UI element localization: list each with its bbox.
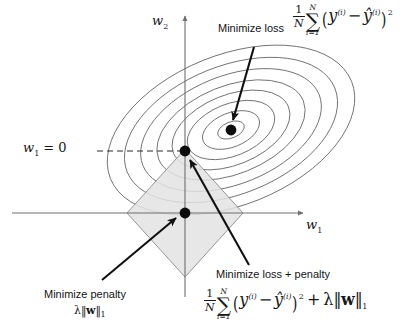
sum-lower-limit: i=1 [306,29,320,38]
sigma-glyph: ∑ [306,13,320,29]
yhat-symbol: ŷ [363,6,372,25]
square-exponent: 2 [388,8,393,17]
minus-sign: − [346,6,363,25]
close-paren: ) [292,293,297,315]
one-over-n-fraction: 1 N [293,4,305,29]
fraction-denominator: N [293,17,305,29]
one-over-n-fraction: 1 N [204,288,216,313]
y-superscript: (i) [337,8,345,17]
norm-subscript: 1 [100,310,105,319]
y-axis-label-sub: 2 [163,22,168,31]
minimize-loss-plus-penalty-formula: 1 N N ∑ i=1 (y(i)−ŷ(i))2+λ‖w‖1 [204,288,367,315]
yhat-superscript: (i) [372,8,380,17]
arrow-minimize-loss [233,47,254,120]
lambda-symbol: λ [74,304,81,317]
x-axis-label-sub: 1 [317,226,322,235]
w1-equals-zero-value: = 0 [39,140,66,155]
sum-lower-limit: i=1 [217,313,231,322]
lambda-symbol: λ [323,290,333,309]
yhat-superscript: (i) [283,292,291,301]
norm-open-bars: ‖ [333,290,341,309]
w1-equals-zero-var: w [23,140,34,155]
sum-upper-limit: N [306,4,320,13]
open-paren: ( [322,9,327,31]
fraction-numerator: 1 [204,288,216,301]
yhat-symbol: ŷ [274,290,283,309]
weight-vector-symbol: w [341,290,355,309]
x-axis-label-text: w [306,217,317,232]
w1-equals-zero-label: w1= 0 [23,141,67,158]
close-paren: ) [381,9,386,31]
y-axis-label-text: w [152,13,163,28]
y-superscript: (i) [248,292,256,301]
penalty-minimum-point [180,208,191,219]
norm-subscript: 1 [362,302,367,311]
sigma-glyph: ∑ [217,297,231,313]
minimize-loss-caption: Minimize loss [218,22,284,35]
minimize-loss-formula: 1 N N ∑ i=1 (y(i)−ŷ(i))2 [293,4,393,31]
summation-operator: N ∑ i=1 [217,297,231,313]
minimize-penalty-caption: Minimize penalty [44,288,126,301]
minus-sign: − [257,290,274,309]
summation-operator: N ∑ i=1 [306,13,320,29]
minimize-penalty-formula: λ‖w‖1 [74,305,106,319]
x-axis-label: w1 [306,218,322,235]
sum-upper-limit: N [217,288,231,297]
fraction-numerator: 1 [293,4,305,17]
lasso-geometry-figure [0,0,409,331]
loss-minimum-point [226,125,237,136]
y-axis-label: w2 [152,14,168,31]
plus-sign: + [304,290,323,309]
open-paren: ( [233,293,238,315]
fraction-denominator: N [204,301,216,313]
loss-plus-penalty-point [180,146,191,157]
minimize-loss-plus-penalty-caption: Minimize loss + penalty [216,268,330,281]
